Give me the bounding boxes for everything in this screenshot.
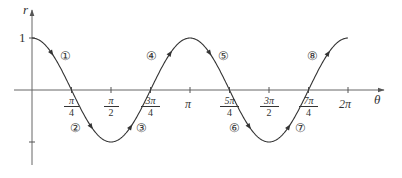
segment-label-4: ④ [146,49,157,64]
tick-den: 4 [141,107,160,118]
tick-num: 7π [299,95,318,107]
segment-label-1: ① [60,49,71,64]
tick-label-3pi-over-4: 3π 4 [141,95,160,118]
tick-num: 3π [260,95,279,107]
tick-label-pi: π [185,97,191,112]
tick-den: 2 [104,107,119,118]
tick-label-5pi-over-4: 5π 4 [220,95,239,118]
y-axis-label: r [23,2,28,18]
tick-label-3pi-over-2: 3π 2 [260,95,279,118]
tick-num: 5π [220,95,239,107]
segment-label-7: ⑦ [295,121,306,136]
y-tick-label-1: 1 [19,30,26,46]
x-axis-label: θ [374,92,380,108]
polar-cartesian-graph [0,0,402,178]
tick-num: 3π [141,95,160,107]
segment-label-2: ② [70,121,81,136]
tick-den: 4 [299,107,318,118]
segment-label-3: ③ [136,121,147,136]
tick-den: 2 [260,107,279,118]
tick-label-2pi: 2π [339,97,351,112]
segment-label-8: ⑧ [307,49,318,64]
segment-label-6: ⑥ [229,121,240,136]
tick-label-pi-over-4: π 4 [64,95,79,118]
tick-label-7pi-over-4: 7π 4 [299,95,318,118]
tick-2pi-text: 2π [339,97,351,111]
tick-den: 4 [220,107,239,118]
tick-num: π [64,95,79,107]
segment-label-5: ⑤ [218,49,229,64]
tick-den: 4 [64,107,79,118]
tick-num: π [104,95,119,107]
tick-label-pi-over-2: π 2 [104,95,119,118]
